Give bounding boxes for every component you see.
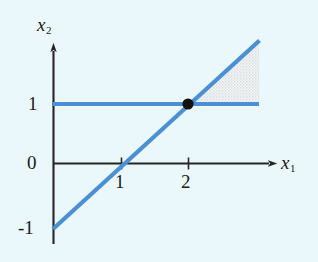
diagonal-line-x2-equals-x1-minus-1 (53, 41, 260, 230)
x-tick-label-1: 1 (115, 172, 125, 191)
y-axis-label: x2 (37, 15, 51, 34)
figure-container: x2 x1 1 0 -1 1 2 (0, 0, 318, 262)
y-tick-label-1: 1 (28, 94, 38, 113)
y-axis-label-sub: 2 (46, 24, 52, 36)
x-axis-label-base: x (281, 152, 289, 173)
x-tick-label-2: 2 (181, 172, 191, 191)
x-axis-label-sub: 1 (290, 162, 296, 174)
y-tick-label-0: 0 (27, 153, 37, 172)
x-axis-label: x1 (281, 153, 295, 172)
y-tick-label-neg-1: -1 (18, 218, 34, 237)
y-axis-label-base: x (37, 14, 45, 35)
plot-canvas (0, 0, 318, 262)
intersection-point (182, 98, 193, 109)
